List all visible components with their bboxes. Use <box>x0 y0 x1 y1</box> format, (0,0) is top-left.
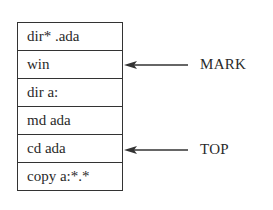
mark-pointer <box>124 58 188 72</box>
mark-label: MARK <box>200 56 246 73</box>
stack-cell: win <box>18 51 122 79</box>
top-label: TOP <box>200 141 229 158</box>
stack-cell: dir a: <box>18 79 122 107</box>
top-pointer <box>124 143 188 157</box>
stack-cell: dir* .ada <box>18 23 122 51</box>
stack-cell: cd ada <box>18 135 122 163</box>
stack-cell: copy a:*.* <box>18 163 122 190</box>
arrow-left-icon <box>124 143 188 157</box>
stack-cell: md ada <box>18 107 122 135</box>
arrow-left-icon <box>124 58 188 72</box>
command-stack: dir* .ada win dir a: md ada cd ada copy … <box>17 22 123 191</box>
